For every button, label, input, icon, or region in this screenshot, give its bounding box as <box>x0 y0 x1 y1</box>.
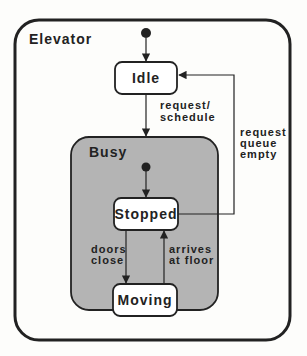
label-line: empty <box>240 148 277 160</box>
label-line: at floor <box>169 254 214 266</box>
moving-label: Moving <box>118 292 173 308</box>
transition-label-request-schedule: request/ schedule <box>160 99 216 123</box>
label-line: schedule <box>160 111 216 123</box>
busy-label: Busy <box>89 144 127 160</box>
label-line: close <box>91 254 124 266</box>
elevator-label: Elevator <box>29 31 92 47</box>
initial-state-outer <box>141 28 151 38</box>
state-diagram: Elevator Idle request/ schedule Busy Sto… <box>0 0 307 356</box>
transition-label-arrives-at-floor: arrives at floor <box>169 243 216 266</box>
label-line: request/ <box>160 99 211 111</box>
idle-label: Idle <box>132 70 160 86</box>
initial-state-busy <box>142 163 151 172</box>
stopped-label: Stopped <box>115 206 178 222</box>
